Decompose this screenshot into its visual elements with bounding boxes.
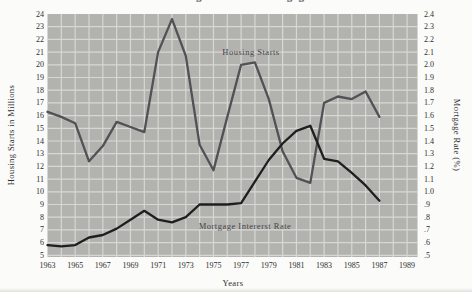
y-left-tick-label: 16	[36, 111, 44, 120]
y-right-tick-label: .9	[424, 200, 430, 209]
y-right-tick-label: 2.3	[424, 22, 434, 31]
y-right-tick-label: .7	[424, 225, 430, 234]
page-scan-shadow	[0, 288, 472, 292]
x-tick-label: 1983	[316, 261, 332, 270]
x-axis-title: Years	[223, 278, 244, 288]
x-tick-label: 1981	[288, 261, 304, 270]
y-axis-left-title: Housing Starts in Millions	[6, 85, 16, 185]
y-left-tick-label: 23	[36, 22, 44, 31]
y-right-tick-label: 1.6	[424, 111, 434, 120]
x-tick-label: 1979	[261, 261, 277, 270]
y-right-tick-label: 1.7	[424, 98, 434, 107]
y-left-tick-label: 5	[40, 251, 44, 260]
x-tick-label: 1967	[95, 261, 111, 270]
x-tick-label: 1973	[178, 261, 194, 270]
x-tick-label: 1965	[67, 261, 83, 270]
y-right-tick-label: 2.2	[424, 35, 434, 44]
x-tick-label: 1985	[344, 261, 360, 270]
y-left-tick-label: 8	[40, 213, 44, 222]
y-left-tick-label: 19	[36, 73, 44, 82]
x-tick-label: 1975	[205, 261, 221, 270]
x-tick-label: 1977	[233, 261, 249, 270]
y-right-tick-label: 1.1	[424, 175, 434, 184]
y-axis-right-title: Mortgage Rate (%)	[452, 99, 462, 171]
x-tick-label: 1971	[150, 261, 166, 270]
y-left-tick-label: 21	[36, 48, 44, 57]
y-right-tick-label: 1.2	[424, 162, 434, 171]
figure: Housing Starts and Mortgage Interest Rat…	[0, 0, 472, 292]
y-right-tick-label: 1.0	[424, 187, 434, 196]
y-right-tick-label: 1.3	[424, 149, 434, 158]
y-right-tick-label: .8	[424, 213, 430, 222]
y-left-tick-label: 20	[36, 60, 44, 69]
y-right-tick-label: .5	[424, 251, 430, 260]
y-left-tick-label: 17	[36, 98, 44, 107]
y-right-tick-label: 1.5	[424, 124, 434, 133]
chart-plot: 242322212019181716151413121110987652.42.…	[0, 0, 472, 292]
housing-starts-series-label: Housing Starts	[222, 47, 279, 57]
y-left-tick-label: 7	[40, 225, 44, 234]
x-tick-label: 1969	[122, 261, 138, 270]
x-tick-label: 1963	[40, 261, 56, 270]
y-left-tick-label: 13	[36, 149, 44, 158]
x-tick-label: 1989	[399, 261, 415, 270]
y-right-tick-label: 1.4	[424, 137, 434, 146]
y-right-tick-label: 1.8	[424, 86, 434, 95]
y-right-tick-label: 2.1	[424, 48, 434, 57]
x-tick-label: 1987	[371, 261, 387, 270]
y-right-tick-label: 2.4	[424, 10, 434, 19]
y-left-tick-label: 9	[40, 200, 44, 209]
y-left-tick-label: 6	[40, 238, 44, 247]
y-left-tick-label: 14	[36, 137, 44, 146]
y-right-tick-label: 2.0	[424, 60, 434, 69]
y-left-tick-label: 15	[36, 124, 44, 133]
y-left-tick-label: 24	[36, 10, 44, 19]
y-left-tick-label: 11	[36, 175, 44, 184]
y-right-tick-label: 1.9	[424, 73, 434, 82]
y-right-tick-label: .6	[424, 238, 430, 247]
y-left-tick-label: 22	[36, 35, 44, 44]
y-left-tick-label: 10	[36, 187, 44, 196]
mortgage-rate-series-label: Mortgage Intererst Rate	[199, 221, 292, 231]
y-left-tick-label: 12	[36, 162, 44, 171]
y-left-tick-label: 18	[36, 86, 44, 95]
